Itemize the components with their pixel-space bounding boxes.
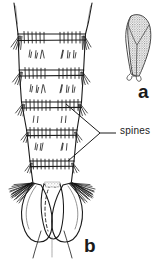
abdominal-segment-2 <box>13 68 90 103</box>
abdominal-segment-3 <box>16 99 88 130</box>
panel-b-drawing <box>9 3 95 258</box>
abdominal-segment-4 <box>21 127 82 161</box>
spines-annotation-label: spines <box>120 126 150 136</box>
figure-container: spines a b <box>0 0 167 265</box>
panel-a-label: a <box>138 82 149 101</box>
abdominal-segment-5 <box>25 159 79 182</box>
lateral-appendage-left <box>14 3 18 34</box>
apical-setae <box>33 231 72 258</box>
spines-leader-lines <box>66 104 116 161</box>
abdominal-segment-1 <box>11 32 91 71</box>
panel-a-drawing <box>126 15 151 82</box>
anal-lobe-right <box>52 183 83 242</box>
median-sclerite <box>45 182 60 187</box>
lateral-appendage-right <box>86 3 93 34</box>
panel-b-label: b <box>84 236 96 255</box>
